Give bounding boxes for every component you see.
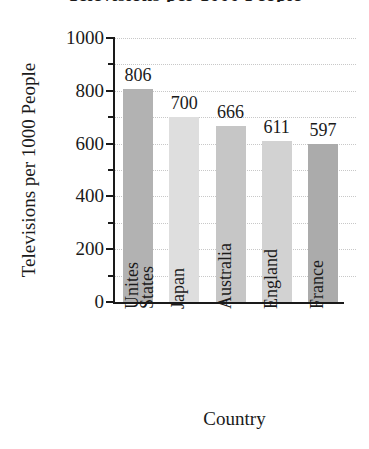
bar-value-label: 806 <box>112 66 164 84</box>
x-tick-label: France <box>309 217 325 309</box>
x-tick-label: States <box>139 217 155 309</box>
y-tick-minor <box>108 116 115 118</box>
x-axis-title: Country <box>113 408 356 430</box>
chart-title: Televisions per 1000 People <box>0 0 369 2</box>
y-tick-label: 0 <box>95 292 105 311</box>
y-tick-label: 400 <box>76 186 105 205</box>
y-tick-minor <box>108 63 115 65</box>
bar-value-label: 597 <box>297 121 349 139</box>
y-tick-major <box>106 248 115 250</box>
x-tick-label: Australia <box>217 217 233 309</box>
y-tick-label: 1000 <box>66 28 104 47</box>
y-tick-major <box>106 195 115 197</box>
y-axis-title: Televisions per 1000 People <box>18 38 40 302</box>
y-tick-label: 200 <box>76 239 105 258</box>
y-tick-major <box>106 143 115 145</box>
y-tick-minor <box>108 222 115 224</box>
y-tick-major <box>106 37 115 39</box>
y-tick-label: 600 <box>76 134 105 153</box>
x-tick-label: England <box>263 217 279 309</box>
bar-value-label: 700 <box>158 94 210 112</box>
gridline <box>115 38 356 39</box>
bar-value-label: 611 <box>251 118 303 136</box>
bar-value-label: 666 <box>205 103 257 121</box>
x-tick-label: Japan <box>170 217 186 309</box>
bar-chart-figure: Televisions per 1000 People Televisions … <box>0 0 369 449</box>
y-tick-major <box>106 301 115 303</box>
y-tick-label: 800 <box>76 81 105 100</box>
y-tick-major <box>106 90 115 92</box>
y-tick-minor <box>108 275 115 277</box>
y-tick-minor <box>108 169 115 171</box>
